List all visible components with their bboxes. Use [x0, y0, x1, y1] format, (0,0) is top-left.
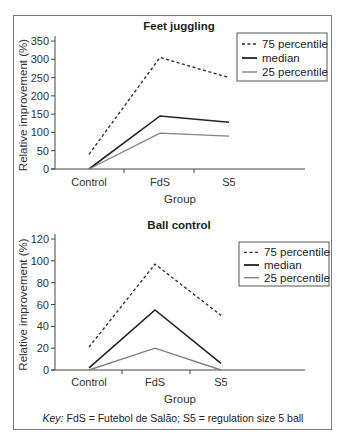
legend-label: 25 percentile [262, 66, 328, 78]
y-tick-label: 60 [37, 299, 49, 311]
y-tick-label: 20 [37, 342, 49, 354]
y-tick-label: 100 [31, 126, 49, 138]
legend-label: 75 percentile [264, 246, 330, 258]
y-tick-label: 0 [43, 364, 49, 376]
y-tick-label: 120 [31, 233, 49, 245]
key-text: FdS = Futebol de Salão; S5 = regulation … [64, 412, 304, 424]
x-category-label: FdS [150, 176, 170, 188]
chart-ball-control: Ball control020406080100120ControlFdSS5G… [17, 219, 330, 405]
y-tick-label: 100 [31, 255, 49, 267]
x-category-label: Control [71, 376, 106, 388]
y-tick-label: 0 [43, 163, 49, 175]
key-prefix: Key: [43, 412, 64, 424]
y-tick-label: 80 [37, 277, 49, 289]
y-axis-label: Relative improvement (%) [17, 39, 29, 171]
legend: 75 percentilemedian25 percentile [239, 242, 330, 286]
y-tick-label: 250 [31, 72, 49, 84]
y-tick-label: 350 [31, 35, 49, 47]
series-line-25-percentile [89, 133, 229, 169]
series-line-median [89, 116, 229, 169]
x-category-label: S5 [214, 376, 227, 388]
figure-key: Key: FdS = Futebol de Salão; S5 = regula… [43, 412, 304, 424]
x-axis-label: Group [164, 193, 196, 205]
series-line-75-percentile [89, 264, 221, 347]
x-axis-label: Group [164, 393, 196, 405]
y-axis-label: Relative improvement (%) [17, 238, 29, 370]
legend-label: 25 percentile [264, 272, 330, 284]
series-line-75-percentile [89, 57, 229, 154]
chart-feet-juggling: Feet juggling050100150200250300350Contro… [17, 20, 328, 205]
legend-label: 75 percentile [262, 38, 328, 50]
x-category-label: FdS [145, 376, 165, 388]
chart-title: Ball control [147, 219, 210, 231]
y-tick-label: 40 [37, 320, 49, 332]
x-category-label: Control [71, 176, 106, 188]
legend-label: median [262, 52, 300, 64]
legend-label: median [264, 259, 302, 271]
legend: 75 percentilemedian25 percentile [237, 33, 328, 81]
y-tick-label: 200 [31, 90, 49, 102]
y-tick-label: 50 [37, 145, 49, 157]
x-category-label: S5 [222, 176, 235, 188]
series-line-median [89, 310, 221, 368]
y-tick-label: 300 [31, 53, 49, 65]
chart-title: Feet juggling [143, 20, 215, 32]
figure-canvas: Feet juggling050100150200250300350Contro… [0, 0, 343, 445]
y-tick-label: 150 [31, 108, 49, 120]
